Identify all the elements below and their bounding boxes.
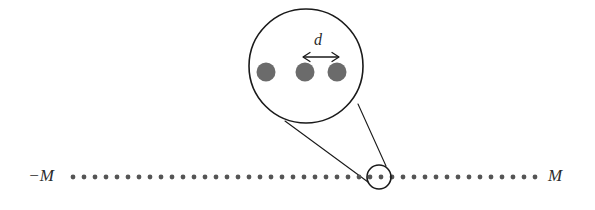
lattice-magnifier-figure: −M M d [0,0,595,210]
magnified-dot [257,63,276,82]
lattice-dot [379,175,384,180]
lattice-dot [214,175,219,180]
lattice-dot [115,175,120,180]
lattice-dot [434,175,439,180]
lattice-dot [445,175,450,180]
lattice-dot [236,175,241,180]
lattice-dot [467,175,472,180]
lattice-dot [357,175,362,180]
lattice-dot-row [71,175,538,180]
spacing-label-d: d [314,31,323,48]
lattice-dot [522,175,527,180]
lattice-dot [181,175,186,180]
lattice-label-left: −M [28,166,54,185]
lattice-dot [159,175,164,180]
lattice-dot [335,175,340,180]
magnified-dot [328,63,347,82]
lattice-dot [489,175,494,180]
lattice-dot [258,175,263,180]
lattice-dot [368,175,373,180]
lattice-dot [423,175,428,180]
lattice-dot [192,175,197,180]
magnified-dot [296,63,315,82]
lattice-dot [203,175,208,180]
lattice-dot [456,175,461,180]
lattice-dot [324,175,329,180]
lattice-dot [126,175,131,180]
lattice-dot [269,175,274,180]
lattice-dot [313,175,318,180]
cone-line-left [285,121,368,182]
lattice-dot [225,175,230,180]
lattice-dot [280,175,285,180]
lattice-dot [82,175,87,180]
lattice-dot [478,175,483,180]
lattice-dot [137,175,142,180]
lattice-dot [346,175,351,180]
lattice-dot [247,175,252,180]
lattice-dot [170,175,175,180]
lattice-dot [511,175,516,180]
lattice-label-right: M [547,166,563,185]
lattice-dot [291,175,296,180]
cone-line-right [358,104,386,166]
lattice-dot [104,175,109,180]
lattice-dot [148,175,153,180]
lattice-dot [412,175,417,180]
lattice-dot [71,175,76,180]
magnified-dot-group [257,63,347,82]
lattice-dot [500,175,505,180]
figure-canvas: −M M d [0,0,595,210]
lattice-dot [93,175,98,180]
lattice-dot [401,175,406,180]
lattice-dot [533,175,538,180]
lattice-dot [302,175,307,180]
